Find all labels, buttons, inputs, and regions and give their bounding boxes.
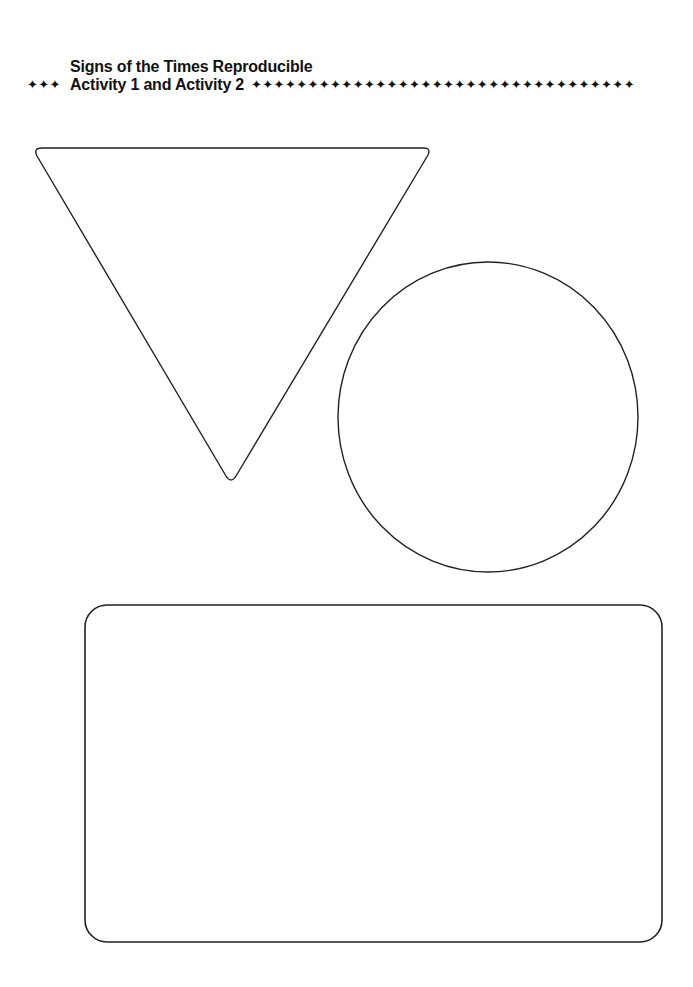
triangle-shape (36, 148, 429, 480)
circle-shape (338, 262, 638, 572)
rectangle-shape (85, 605, 662, 942)
sign-shapes (0, 0, 693, 987)
